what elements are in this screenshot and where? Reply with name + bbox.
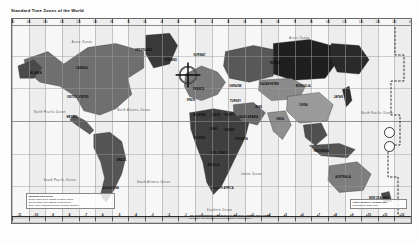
clock-icon-1 [384,127,395,138]
longitude-tick-label: 75 [127,21,130,24]
ocean-label: Indian Ocean [241,173,262,176]
longitude-tick [411,19,412,23]
longitude-tick-label: 90 [110,21,113,24]
country-label: NORWAY [194,53,206,56]
longitude-tick-label: 0 [211,21,213,24]
utc-offset-label: +10 [366,213,371,217]
utc-offset-label: -11 [17,213,21,217]
country-label: MEXICO [66,115,77,118]
ocean-label: Southern Ocean [207,208,232,211]
longitude-tick [411,217,412,221]
ocean-label: South Pacific Ocean [44,179,76,182]
utc-offset-label: +3 [250,213,253,217]
country-label: BRAZIL [117,158,127,161]
legend-standard-time-zones: Standard time zonesZones using UTC offse… [26,193,115,209]
country-label: ICELAND [165,58,177,61]
utc-offset-label: -4 [134,213,137,217]
longitude-tick-label: 45 [260,21,263,24]
country-label: SUDAN [225,129,235,132]
country-label: ALASKA [30,72,41,75]
longitude-tick-label: 30 [177,21,180,24]
utc-offset-label: -5 [118,213,121,217]
country-label: LIBYA [212,113,220,116]
country-label: JAPAN [334,95,343,98]
country-label: SOUTH AFRICA [213,187,234,190]
ocean-label: Arctic Ocean [72,41,92,44]
utc-offset-label: -1 [184,213,187,217]
crosshair-target-icon[interactable] [175,62,201,88]
longitude-tick-label: 120 [342,21,346,24]
utc-offset-label: +6 [300,213,303,217]
longitude-tick-label: 135 [60,21,64,24]
country-label: SPAIN [187,98,195,101]
country-label: NIGERIA [194,137,206,140]
longitude-tick-label: 90 [310,21,313,24]
longitude-tick-label: 15 [193,21,196,24]
country-label: UKRAINE [229,85,242,88]
longitude-tick-label: 60 [144,21,147,24]
country-label: D.R. CONGO [211,151,228,154]
country-label: ALGERIA [193,113,205,116]
country-label: SAUDI ARABIA [238,115,258,118]
utc-offset-label: +5 [284,213,287,217]
country-label: ANGOLA [208,163,220,166]
utc-offset-label: +7 [317,213,320,217]
utc-offset-label: +4 [267,213,270,217]
page-title: Standard Time Zones of the World [11,8,84,13]
country-label: ARGENTINA [103,187,119,190]
ocean-label: North Atlantic Ocean [117,108,150,111]
utc-offset-label: -2 [168,213,171,217]
longitude-tick-label: 150 [376,21,380,24]
country-label: INDIA [276,117,284,120]
ocean-label: South Atlantic Ocean [137,181,170,184]
longitude-tick-label: 120 [76,21,80,24]
country-label: EGYPT [225,113,234,116]
utc-offset-label: -8 [68,213,71,217]
longitude-tick-label: 135 [359,21,363,24]
utc-offset-labels: -11-10-9-8-7-6-5-4-3-2-10+1+2+3+4+5+6+7+… [11,213,410,221]
utc-offset-label: -9 [51,213,54,217]
time-zone-map-page: Standard Time Zones of the World Arctic … [0,0,419,243]
country-label: CHINA [299,103,308,106]
country-label: KAZAKHSTAN [260,83,279,86]
utc-offset-label: +1 [217,213,220,217]
country-label: ETHIOPIA [235,138,248,141]
longitude-tick-label: 45 [160,21,163,24]
longitude-tick-label: 15 [227,21,230,24]
utc-offset-label: +2 [234,213,237,217]
country-label: TURKEY [230,99,241,102]
ocean-label: North Pacific Ocean [361,111,393,114]
utc-offset-label: +11 [383,213,388,217]
country-label: AUSTRALIA [335,176,351,179]
longitude-tick-label: 180 [409,21,412,24]
country-label: FRANCE [193,88,204,91]
utc-offset-label: 0 [201,213,203,217]
country-label: INDONESIA [314,149,329,152]
country-label: UNITED STATES [67,95,89,98]
longitude-tick-label: 30 [243,21,246,24]
longitude-tick-label: 105 [326,21,330,24]
utc-offset-label: -6 [101,213,104,217]
country-label: GREENLAND [135,48,152,51]
meridian-line [411,19,412,223]
utc-offset-label: -10 [34,213,38,217]
utc-offset-label: -3 [151,213,154,217]
longitude-tick-label: 75 [293,21,296,24]
clock-icon-2 [384,141,395,152]
country-label: CANADA [76,66,88,69]
country-label: IRAN [255,105,262,108]
country-label: RUSSIA [270,61,280,64]
longitude-tick-label: 180 [11,21,14,24]
legend-line: Time zone boundaries follow political bo… [29,204,113,207]
utc-offset-label: +8 [333,213,336,217]
utc-offset-label: +9 [350,213,353,217]
ocean-label: Arctic Ocean [289,37,309,40]
longitude-tick-label: 165 [26,21,30,24]
world-map[interactable]: Arctic OceanNorth Pacific OceanNorth Atl… [11,18,412,224]
legend-line: International Date Line [353,204,405,207]
country-label: MONGOLIA [296,85,311,88]
utc-offset-label: -7 [84,213,87,217]
top-tick-rail: 1801651501351201059075604530150153045607… [12,19,411,26]
longitude-tick-label: 165 [392,21,396,24]
longitude-tick-label: 60 [277,21,280,24]
